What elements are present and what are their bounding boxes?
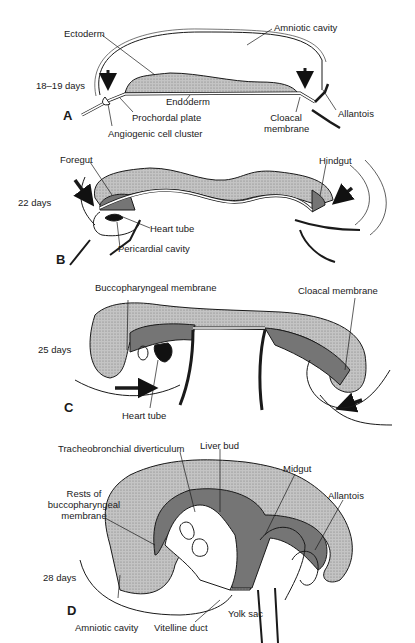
age-label-a: 18–19 days — [36, 80, 85, 91]
label-prochordal-plate: Prochordal plate — [132, 112, 201, 123]
age-label-b: 22 days — [18, 197, 51, 208]
panel-letter-c: C — [64, 400, 73, 415]
label-buccopharyngeal-membrane: Buccopharyngeal membrane — [95, 282, 216, 293]
age-label-c: 25 days — [38, 344, 71, 355]
label-tracheobronchial-diverticulum: Tracheobronchial diverticulum — [58, 443, 184, 454]
label-rests-buccopharyngeal: Rests of buccopharyngeal membrane — [44, 488, 124, 521]
label-yolk-sac: Yolk sac — [228, 608, 263, 619]
label-hindgut: Hindgut — [319, 155, 352, 166]
panel-c-drawing — [75, 298, 392, 425]
label-heart-tube-b: Heart tube — [150, 223, 194, 234]
label-rests-line1: Rests of — [67, 488, 102, 499]
label-endoderm: Endoderm — [166, 96, 210, 107]
label-allantois-a: Allantois — [338, 108, 374, 119]
label-pericardial-cavity: Pericardial cavity — [118, 243, 190, 254]
label-ectoderm: Ectoderm — [64, 28, 105, 39]
label-rests-line2: buccopharyngeal — [48, 499, 120, 510]
label-allantois-d: Allantois — [328, 490, 364, 501]
label-vitelline-duct: Vitelline duct — [154, 622, 208, 633]
panel-d-drawing — [80, 449, 352, 643]
label-amniotic-cavity-d: Amniotic cavity — [75, 622, 138, 633]
label-liver-bud: Liver bud — [200, 440, 239, 451]
panel-letter-d: D — [67, 603, 76, 618]
label-cloacal-membrane-c: Cloacal membrane — [298, 285, 378, 296]
label-heart-tube-c: Heart tube — [122, 410, 166, 421]
label-cloacal-line2: membrane — [264, 123, 309, 134]
label-cloacal-membrane-a: Cloacal membrane — [264, 112, 308, 134]
label-rests-line3: membrane — [61, 510, 106, 521]
label-foregut: Foregut — [60, 154, 93, 165]
label-angiogenic-cell-cluster: Angiogenic cell cluster — [108, 128, 203, 139]
panel-letter-b: B — [56, 252, 65, 267]
label-midgut: Midgut — [283, 463, 312, 474]
age-label-d: 28 days — [43, 572, 76, 583]
panel-letter-a: A — [63, 108, 72, 123]
label-cloacal-line1: Cloacal — [270, 112, 302, 123]
label-amniotic-cavity-a: Amniotic cavity — [274, 22, 337, 33]
